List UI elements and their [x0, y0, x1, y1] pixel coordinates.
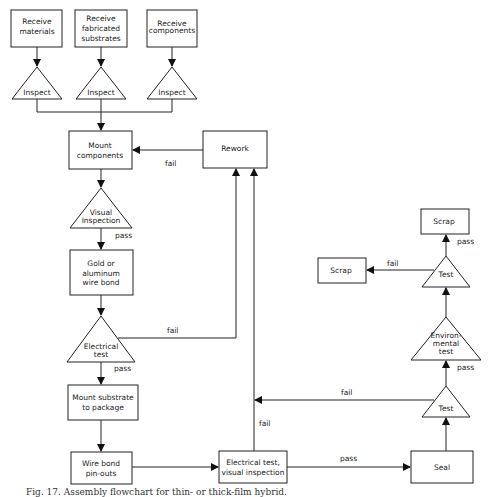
inspect-2-label: Inspect	[87, 88, 114, 97]
environmental-test-label-3: test	[439, 347, 453, 356]
electrical-visual-box	[219, 451, 287, 483]
fail-label-elec-visual: fail	[259, 419, 270, 428]
figure-caption: Fig. 17. Assembly flowchart for thin- or…	[26, 487, 287, 497]
pass-label-visual: pass	[115, 231, 132, 240]
scrap-top-label: Scrap	[433, 217, 455, 226]
pass-label-elec-visual: pass	[340, 454, 357, 463]
receive-materials-label-1: Receive	[22, 17, 52, 26]
electrical-test-label-2: test	[94, 350, 108, 359]
mount-substrate-label-1: Mount substrate	[72, 393, 134, 402]
wire-bond-label-1: Gold or	[87, 259, 115, 268]
mount-components-label-1: Mount	[88, 141, 112, 150]
inspect-1-label: Inspect	[23, 88, 50, 97]
test-upper-label: Test	[438, 270, 454, 279]
wire-bond-label-3: wire bond	[83, 278, 120, 287]
electrical-visual-label-1: Electrical test,	[226, 458, 280, 467]
fail-label-test-lower: fail	[341, 388, 352, 397]
receive-components-label-2: components	[149, 26, 195, 35]
pass-label-electrical: pass	[114, 364, 131, 373]
mount-substrate-label-2: to package	[82, 403, 124, 412]
wire-bond-pinouts-label-1: Wire bond	[82, 459, 120, 468]
receive-substrates-label-2: fabricated	[82, 24, 120, 33]
receive-substrates-label-1: Receive	[86, 14, 116, 23]
visual-inspection-label-2: Inspection	[82, 216, 121, 225]
test-lower-label: Test	[438, 404, 454, 413]
receive-materials-label-2: materials	[19, 27, 54, 36]
wire-bond-pinouts-box	[71, 452, 132, 484]
mount-components-label-2: components	[77, 151, 123, 160]
wire-bond-pinouts-label-2: pin-outs	[86, 469, 117, 478]
scrap-left-label: Scrap	[330, 266, 352, 275]
receive-substrates-label-3: substrates	[81, 34, 121, 43]
pass-label-env: pass	[457, 363, 474, 372]
fail-label-electrical: fail	[167, 326, 178, 335]
inspect-3-label: Inspect	[158, 88, 185, 97]
mount-components-box	[69, 131, 132, 169]
wire-bond-label-2: aluminum	[82, 269, 120, 278]
seal-label: Seal	[434, 463, 450, 472]
flowchart: Receive materials Receive fabricated sub…	[0, 0, 492, 497]
fail-label-mount: fail	[165, 159, 176, 168]
fail-label-test-upper: fail	[387, 259, 398, 268]
electrical-visual-label-2: visual inspection	[222, 468, 285, 477]
rework-label: Rework	[221, 144, 249, 153]
pass-label-test-upper: pass	[457, 237, 474, 246]
